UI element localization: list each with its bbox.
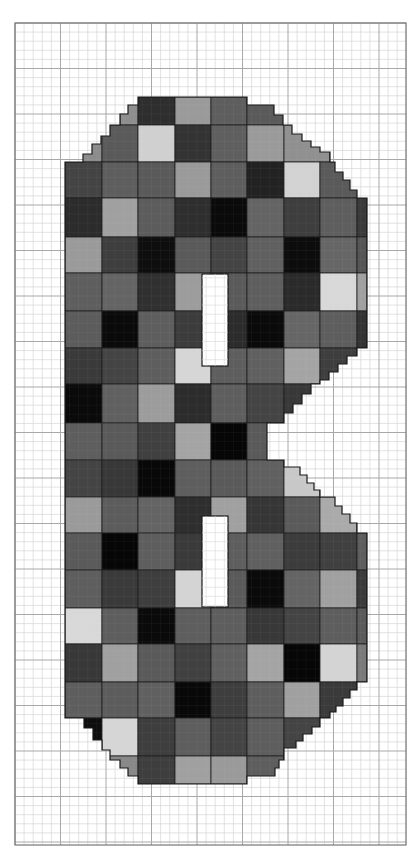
mosaic-tile — [284, 198, 320, 237]
mosaic-tile — [65, 311, 102, 348]
mosaic-tile — [102, 162, 138, 198]
mosaic-tile — [357, 644, 367, 682]
mosaic-tile — [65, 533, 102, 570]
mosaic-tile — [65, 198, 102, 237]
mosaic-tile — [247, 237, 284, 273]
mosaic-tile — [175, 644, 211, 682]
mosaic-tile — [247, 125, 284, 162]
mosaic-tile — [357, 237, 367, 273]
mosaic-tile — [65, 162, 102, 198]
mosaic-tile — [211, 162, 247, 198]
mosaic-tile — [247, 198, 284, 237]
mosaic-tile — [102, 237, 138, 273]
mosaic-tile — [284, 497, 320, 533]
mosaic-tile — [247, 497, 284, 533]
mosaic-tile — [175, 97, 211, 125]
mosaic-tile — [247, 533, 284, 570]
mosaic-tile — [102, 644, 138, 682]
mosaic-tile — [175, 460, 211, 497]
mosaic-tile — [247, 384, 284, 423]
mosaic-tile — [65, 497, 102, 533]
mosaic-tile — [247, 348, 284, 384]
mosaic-tile — [357, 311, 367, 348]
mosaic-tile — [175, 384, 211, 423]
mosaic-tile — [65, 460, 102, 497]
mosaic-tile — [211, 460, 247, 497]
mosaic-tile — [102, 198, 138, 237]
mosaic-tile — [65, 237, 102, 273]
mosaic-tile — [284, 162, 320, 198]
mosaic-tile — [247, 311, 284, 348]
mosaic-tile — [247, 460, 284, 497]
mosaic-tile — [284, 533, 320, 570]
mosaic-tile — [284, 311, 320, 348]
mosaic-tile — [211, 198, 247, 237]
mosaic-tile — [247, 570, 284, 608]
mosaic-tile — [284, 608, 320, 644]
mosaic-tile — [211, 608, 247, 644]
mosaic-tile — [102, 460, 138, 497]
mosaic-tile — [284, 570, 320, 608]
mosaic-tile — [65, 608, 102, 644]
mosaic-tile — [284, 348, 320, 384]
mosaic-tile — [65, 570, 102, 608]
mosaic-tile — [247, 162, 284, 198]
mosaic-tile — [102, 311, 138, 348]
mosaic-chart — [0, 0, 412, 862]
mosaic-tile — [211, 384, 247, 423]
mosaic-tile — [357, 533, 367, 570]
mosaic-tile — [175, 198, 211, 237]
mosaic-tile — [284, 644, 320, 682]
mosaic-tile — [102, 533, 138, 570]
mosaic-tile — [357, 570, 367, 608]
mosaic-tile — [284, 237, 320, 273]
mosaic-tile — [102, 348, 138, 384]
mosaic-tile — [102, 570, 138, 608]
mosaic-tile — [211, 644, 247, 682]
mosaic-tile — [211, 97, 247, 125]
mosaic-tile — [175, 162, 211, 198]
mosaic-tile — [65, 644, 102, 682]
mosaic-tile — [65, 348, 102, 384]
mosaic-tile — [102, 497, 138, 533]
mosaic-tile — [357, 608, 367, 644]
mosaic-tile — [102, 384, 138, 423]
mosaic-tile — [357, 198, 367, 237]
mosaic-tile — [211, 125, 247, 162]
mosaic-tile — [175, 237, 211, 273]
mosaic-tile — [102, 608, 138, 644]
mosaic-tile — [247, 644, 284, 682]
mosaic-tile — [247, 608, 284, 644]
mosaic-tile — [175, 125, 211, 162]
mosaic-tile — [175, 608, 211, 644]
mosaic-tile — [65, 384, 102, 423]
mosaic-tile — [211, 237, 247, 273]
